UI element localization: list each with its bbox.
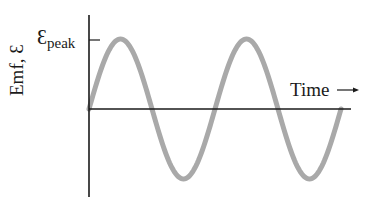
- x-axis-label: Time: [290, 79, 329, 101]
- peak-subscript: peak: [47, 35, 75, 51]
- peak-symbol: Ɛ: [37, 26, 47, 48]
- peak-label: Ɛpeak: [37, 26, 75, 52]
- y-axis-label: Emf, Ɛ: [6, 44, 28, 96]
- time-arrow-icon: [337, 88, 359, 93]
